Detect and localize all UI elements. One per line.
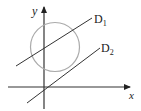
- line-d2-label: D2: [101, 41, 114, 57]
- coordinate-diagram: y x D1 D2: [0, 0, 141, 111]
- line-d2: [27, 48, 100, 103]
- line-d1: [16, 18, 92, 66]
- line-d1-label: D1: [94, 12, 107, 28]
- circle: [31, 23, 80, 72]
- x-axis-label: x: [128, 89, 134, 101]
- y-axis-label: y: [31, 4, 38, 18]
- diagram-canvas: y x D1 D2: [0, 0, 141, 111]
